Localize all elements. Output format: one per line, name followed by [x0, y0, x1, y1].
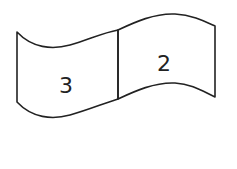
left-panel-label: 3 — [59, 73, 73, 98]
banner-outline — [17, 14, 215, 117]
right-panel-label: 2 — [157, 51, 171, 76]
wavy-banner-diagram: 3 2 — [0, 0, 237, 169]
